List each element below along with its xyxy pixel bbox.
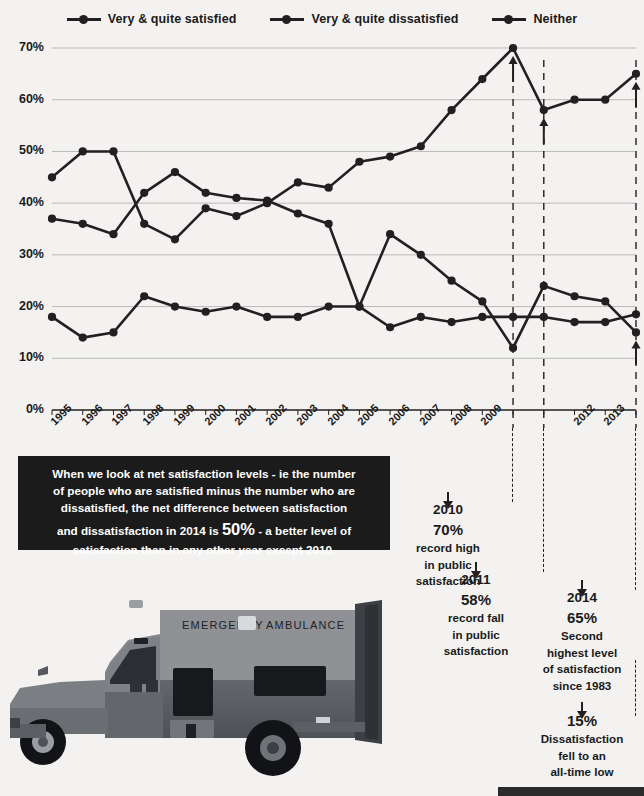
data-point <box>325 302 333 310</box>
data-point <box>570 318 578 326</box>
callout-2014: 2014 65% Second highest level of satisfa… <box>530 588 634 694</box>
data-point <box>140 292 148 300</box>
data-point <box>232 194 240 202</box>
data-point <box>140 189 148 197</box>
callout-2014-pct: 65% <box>530 607 634 628</box>
callout-2011: 2011 58% record fall in public satisfact… <box>424 570 528 660</box>
data-point <box>601 318 609 326</box>
data-point <box>478 75 486 83</box>
data-point <box>447 106 455 114</box>
data-point <box>294 313 302 321</box>
series-line-2 <box>52 296 636 337</box>
data-point <box>79 147 87 155</box>
data-point <box>540 106 548 114</box>
callout-2011-pct: 58% <box>424 589 528 610</box>
data-point <box>632 328 640 336</box>
callout-15-line-1: Dissatisfaction <box>530 731 634 747</box>
data-point <box>386 323 394 331</box>
data-point <box>109 328 117 336</box>
y-axis-tick-label: 70% <box>0 40 44 54</box>
callout-2010-line-1: record high <box>396 540 500 556</box>
data-point <box>601 96 609 104</box>
bottom-accent-bar <box>498 787 644 796</box>
data-point <box>48 215 56 223</box>
data-point <box>232 212 240 220</box>
callout-2010-pct: 70% <box>396 519 500 540</box>
y-axis-tick-label: 30% <box>0 247 44 261</box>
callout-2014-line-4: since 1983 <box>530 678 634 694</box>
callout-2014-line-2: highest level <box>530 645 634 661</box>
data-point <box>601 297 609 305</box>
legend-item-satisfied: Very & quite satisfied <box>67 12 237 26</box>
infobox-line-2: of people who are satisfied minus the nu… <box>32 482 376 499</box>
y-axis-tick-label: 60% <box>0 92 44 106</box>
callout-2011-line-1: record fall <box>424 610 528 626</box>
data-point <box>263 313 271 321</box>
legend-marker-icon <box>67 13 101 25</box>
data-point <box>171 168 179 176</box>
data-point <box>386 230 394 238</box>
callout-connector-line <box>543 428 544 572</box>
data-point <box>79 220 87 228</box>
data-point <box>509 44 517 52</box>
infobox-line-5: satisfaction than in any other year exce… <box>32 541 376 558</box>
y-axis-tick-label: 40% <box>0 195 44 209</box>
legend-label-satisfied: Very & quite satisfied <box>108 12 237 26</box>
callout-arrow-down <box>574 702 590 720</box>
line-chart: 0%10%20%30%40%50%60%70% 1995199619971998… <box>0 28 644 428</box>
data-point <box>447 318 455 326</box>
callout-arrow-down <box>468 562 484 580</box>
data-point <box>171 302 179 310</box>
infobox-line-3: dissatisfied, the net difference between… <box>32 499 376 516</box>
callout-15-line-3: all-time low <box>530 764 634 780</box>
net-satisfaction-callout-box: When we look at net satisfaction levels … <box>18 456 390 550</box>
ambulance-body: EMERGENCY AMBULANCE <box>10 600 382 776</box>
series-line-1 <box>52 172 636 348</box>
infobox-line-4-post: - a better level of <box>255 524 351 537</box>
legend-marker-icon <box>492 13 526 25</box>
callout-2011-line-3: satisfaction <box>424 643 528 659</box>
series-line-0 <box>52 48 636 239</box>
callout-2014-line-1: Second <box>530 628 634 644</box>
annotation-arrow-up <box>632 82 641 108</box>
data-point <box>140 220 148 228</box>
ambulance-text-ambulance: AMBULANCE <box>266 619 345 631</box>
data-point <box>509 344 517 352</box>
y-axis-tick-label: 0% <box>0 402 44 416</box>
data-point <box>202 308 210 316</box>
data-point <box>109 147 117 155</box>
data-point <box>294 178 302 186</box>
infobox-line-1: When we look at net satisfaction levels … <box>32 465 376 482</box>
callout-dissatisfaction-low: 15% Dissatisfaction fell to an all-time … <box>530 710 634 781</box>
data-point <box>232 302 240 310</box>
data-point <box>171 235 179 243</box>
callout-connector-line <box>635 428 636 590</box>
callout-connector-line <box>635 660 636 716</box>
data-point <box>109 230 117 238</box>
data-point <box>355 158 363 166</box>
callout-15-line-2: fell to an <box>530 748 634 764</box>
infobox-line-4-pre: and dissatisfaction in 2014 is <box>57 524 222 537</box>
legend-label-dissatisfied: Very & quite dissatisfied <box>311 12 458 26</box>
callout-arrow-down <box>440 492 456 510</box>
callout-2011-line-2: in public <box>424 627 528 643</box>
ambulance-photo: EMERGENCY AMBULANCE <box>10 562 422 794</box>
legend-marker-icon <box>270 13 304 25</box>
data-point <box>79 334 87 342</box>
infobox-line-4: and dissatisfaction in 2014 is 50% - a b… <box>32 517 376 541</box>
data-point <box>325 220 333 228</box>
data-point <box>570 96 578 104</box>
data-point <box>417 142 425 150</box>
annotation-arrow-up <box>509 56 518 82</box>
data-point <box>540 313 548 321</box>
callout-connector-line <box>512 428 513 502</box>
data-point <box>478 297 486 305</box>
data-point <box>417 251 425 259</box>
legend-label-neither: Neither <box>533 12 577 26</box>
data-point <box>540 282 548 290</box>
data-point <box>48 173 56 181</box>
y-axis-tick-label: 20% <box>0 299 44 313</box>
data-point <box>632 310 640 318</box>
annotation-arrow-up <box>539 118 548 144</box>
data-point <box>355 302 363 310</box>
